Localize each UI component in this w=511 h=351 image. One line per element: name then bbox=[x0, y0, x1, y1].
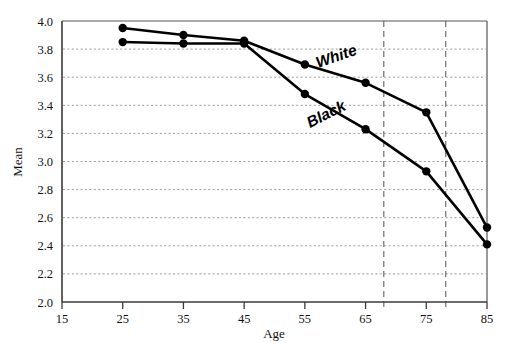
data-point bbox=[179, 31, 187, 39]
y-tick-label: 2.4 bbox=[37, 239, 53, 253]
x-tick-label: 85 bbox=[481, 312, 494, 326]
y-tick-label: 2.2 bbox=[37, 267, 53, 281]
x-tick-label: 15 bbox=[56, 312, 69, 326]
data-point bbox=[179, 39, 187, 47]
y-tick-label: 2.0 bbox=[37, 296, 53, 310]
x-axis-tick-labels: 1525354555657585 bbox=[56, 312, 494, 326]
y-tick-label: 3.0 bbox=[37, 155, 53, 169]
y-tick-label: 2.6 bbox=[37, 211, 53, 225]
data-point bbox=[361, 79, 369, 87]
data-point bbox=[119, 38, 127, 46]
y-tick-label: 3.6 bbox=[37, 71, 53, 85]
x-axis-ticks bbox=[62, 302, 487, 309]
data-point bbox=[483, 223, 491, 231]
data-point bbox=[422, 108, 430, 116]
x-tick-label: 45 bbox=[238, 312, 251, 326]
line-chart: 1525354555657585 2.02.22.42.62.83.03.23.… bbox=[0, 0, 511, 351]
chart-container: 1525354555657585 2.02.22.42.62.83.03.23.… bbox=[0, 0, 511, 351]
data-point bbox=[422, 167, 430, 175]
y-tick-label: 2.8 bbox=[37, 183, 53, 197]
x-tick-label: 35 bbox=[177, 312, 190, 326]
y-tick-label: 3.8 bbox=[37, 43, 53, 57]
data-point bbox=[301, 90, 309, 98]
y-tick-label: 3.2 bbox=[37, 127, 53, 141]
data-point bbox=[483, 240, 491, 248]
y-axis-tick-labels: 2.02.22.42.62.83.03.23.43.63.84.0 bbox=[37, 15, 53, 310]
data-point bbox=[301, 60, 309, 68]
x-tick-label: 25 bbox=[116, 312, 129, 326]
x-tick-label: 65 bbox=[359, 312, 372, 326]
y-tick-label: 4.0 bbox=[37, 15, 53, 29]
data-point bbox=[240, 39, 248, 47]
data-point bbox=[119, 24, 127, 32]
y-tick-label: 3.4 bbox=[37, 99, 53, 113]
x-tick-label: 55 bbox=[299, 312, 312, 326]
x-tick-label: 75 bbox=[420, 312, 433, 326]
data-point bbox=[361, 125, 369, 133]
x-axis-title: Age bbox=[263, 326, 285, 341]
y-axis-title: Mean bbox=[10, 147, 25, 177]
